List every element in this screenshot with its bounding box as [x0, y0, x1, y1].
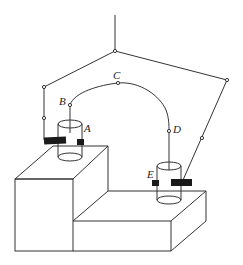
clamp-a-left [44, 136, 66, 144]
node-b [68, 103, 71, 106]
label-a: A [84, 123, 91, 134]
node-left-arm-top [42, 85, 45, 88]
label-e: E [147, 169, 154, 180]
clamp-e-left [152, 180, 159, 186]
node-right-arm-top [225, 78, 228, 81]
step-block [15, 146, 206, 251]
diagram-svg [0, 0, 243, 265]
node-d [167, 129, 170, 132]
clamp-e-right [171, 179, 192, 186]
clamp-a-right [77, 139, 84, 145]
label-d: D [173, 124, 181, 135]
node-c [116, 81, 119, 84]
node-hub [113, 49, 116, 52]
label-c: C [113, 70, 120, 81]
apparatus-diagram: A B C D E [0, 0, 243, 265]
node-left-arm-mid [42, 116, 45, 119]
label-b: B [59, 96, 66, 107]
right-arm [115, 51, 227, 180]
node-right-arm-mid [200, 136, 203, 139]
